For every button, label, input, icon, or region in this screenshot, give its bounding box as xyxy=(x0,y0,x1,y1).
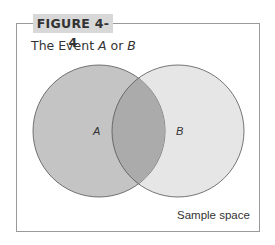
sample-space-label: Sample space xyxy=(177,209,250,221)
set-b-label: B xyxy=(176,125,183,137)
set-a-label: A xyxy=(93,125,100,137)
